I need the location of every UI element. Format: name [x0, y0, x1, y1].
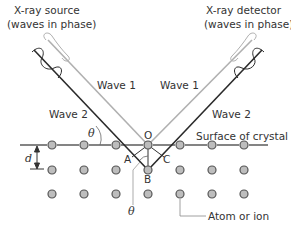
atom-grid	[48, 141, 248, 198]
source-label-line1: X-ray source	[14, 4, 80, 16]
point-o-label: O	[144, 129, 152, 141]
point-a-label: A	[124, 153, 132, 165]
theta-arc-lower	[140, 156, 148, 160]
point-c-label: C	[163, 153, 170, 165]
source-label-line2: (waves in phase)	[7, 18, 96, 30]
theta-leader-line	[133, 162, 140, 170]
detector-label-line1: X-ray detector	[206, 4, 282, 16]
wave1-right-label: Wave 1	[160, 79, 199, 91]
theta-arc-upper	[96, 126, 101, 145]
spacing-arrow	[30, 146, 44, 169]
wave2-left-label: Wave 2	[49, 108, 88, 120]
theta-upper-label: θ	[88, 127, 95, 140]
surface-label: Surface of crystal	[196, 130, 288, 142]
point-b-label: B	[144, 173, 151, 185]
bragg-diffraction-diagram: X-ray source (waves in phase) X-ray dete…	[0, 0, 291, 232]
wave1-left-label: Wave 1	[97, 79, 136, 91]
spacing-d-label: d	[25, 152, 32, 165]
detector-label-line2: (waves in phase)	[204, 18, 291, 30]
atom-leader-line	[180, 199, 206, 216]
atom-label: Atom or ion	[208, 210, 269, 222]
wave2-right-label: Wave 2	[212, 108, 251, 120]
theta-lower-label: θ	[128, 205, 135, 218]
